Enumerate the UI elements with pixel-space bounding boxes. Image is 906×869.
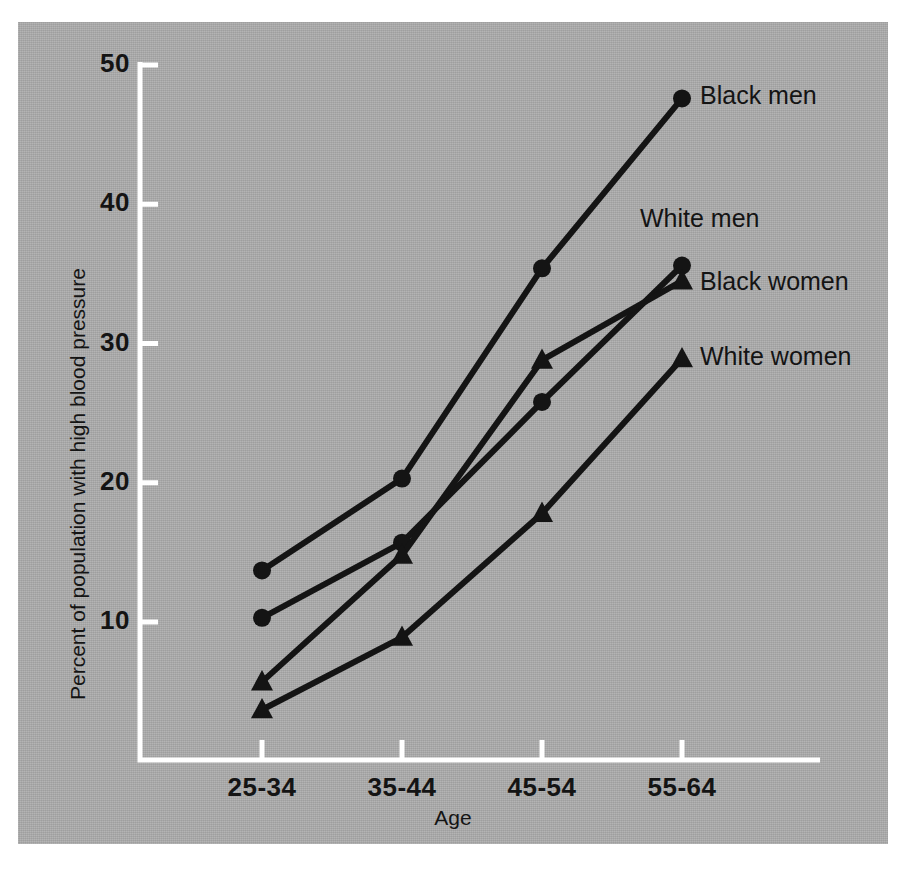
x-tick-label-25-34: 25-34 bbox=[192, 772, 332, 803]
series-label-white-men: White men bbox=[640, 204, 759, 233]
data-point-circle bbox=[253, 561, 271, 579]
series-label-white-women: White women bbox=[700, 342, 851, 371]
data-point-circle bbox=[533, 393, 551, 411]
line-chart bbox=[0, 0, 906, 869]
data-point-circle bbox=[393, 470, 411, 488]
data-point-circle bbox=[253, 609, 271, 627]
series-label-black-men: Black men bbox=[700, 81, 817, 110]
data-point-circle bbox=[673, 89, 691, 107]
chart-axes bbox=[140, 62, 820, 760]
figure-page: Percent of population with high blood pr… bbox=[0, 0, 906, 869]
x-tick-label-45-54: 45-54 bbox=[472, 772, 612, 803]
series-label-black-women: Black women bbox=[700, 267, 849, 296]
chart-plot-area bbox=[251, 89, 693, 718]
x-axis-title: Age bbox=[0, 806, 906, 830]
y-tick-label-30: 30 bbox=[60, 327, 130, 358]
series-black-men bbox=[253, 89, 691, 579]
series-black-women bbox=[251, 269, 693, 690]
x-tick-label-55-64: 55-64 bbox=[612, 772, 752, 803]
y-tick-label-10: 10 bbox=[60, 605, 130, 636]
data-point-circle bbox=[533, 259, 551, 277]
data-point-triangle bbox=[671, 347, 693, 367]
x-tick-label-35-44: 35-44 bbox=[332, 772, 472, 803]
y-tick-label-40: 40 bbox=[60, 187, 130, 218]
y-tick-label-20: 20 bbox=[60, 466, 130, 497]
y-tick-label-50: 50 bbox=[60, 48, 130, 79]
